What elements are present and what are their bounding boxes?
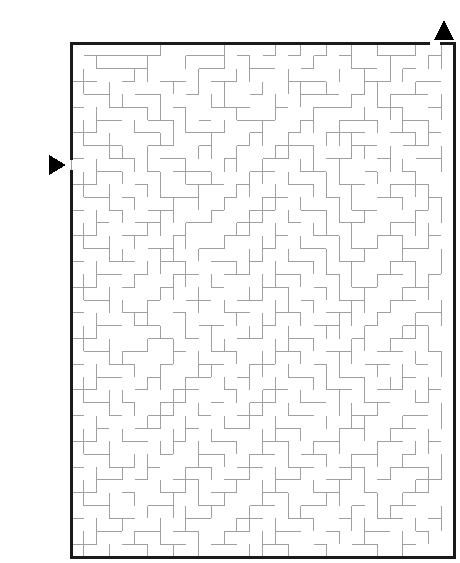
maze-figure [40,16,460,563]
maze-canvas [40,16,460,563]
